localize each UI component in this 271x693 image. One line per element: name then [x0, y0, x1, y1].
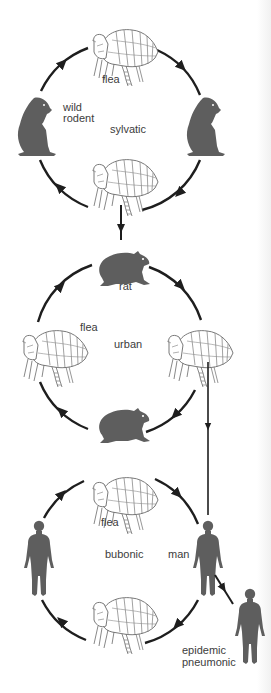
bubonic-cycle: [24, 478, 223, 654]
arc-top-right: [157, 50, 200, 95]
arc-left-top: [41, 48, 88, 91]
label-urban: urban: [114, 338, 142, 350]
wild-rodent-icon: [18, 98, 56, 156]
arc-bottom-left: [40, 382, 88, 429]
label-urban-flea: flea: [80, 321, 98, 333]
arc-left-top: [44, 481, 84, 518]
label-bubonic-flea: flea: [101, 516, 119, 528]
label-epidemic: epidemic: [182, 644, 226, 656]
arc-bottom-left: [40, 160, 88, 207]
flea-icon: [92, 598, 158, 654]
arc-right-bottom: [146, 390, 195, 432]
rat-icon: [99, 408, 150, 443]
arc-top-right: [155, 479, 198, 524]
arc-left-top: [38, 265, 92, 322]
label-man: man: [168, 548, 189, 560]
label-rodent: rodent: [63, 112, 94, 124]
link-bubonic-pneumonic: [215, 575, 233, 604]
arc-top-right: [149, 267, 201, 320]
man-icon: [193, 521, 223, 596]
flea-icon: [167, 331, 233, 387]
pneumonic-man-icon: [235, 589, 265, 664]
label-sylvatic-flea: flea: [102, 73, 120, 85]
man-icon: [24, 521, 54, 596]
label-rat: rat: [119, 280, 132, 292]
wild-rodent-icon: [187, 98, 225, 156]
label-pneumonic: pneumonic: [182, 656, 236, 668]
label-sylvatic: sylvatic: [110, 123, 146, 135]
arc-bottom-left: [42, 600, 86, 640]
flea-icon: [22, 331, 88, 387]
label-bubonic: bubonic: [105, 548, 144, 560]
